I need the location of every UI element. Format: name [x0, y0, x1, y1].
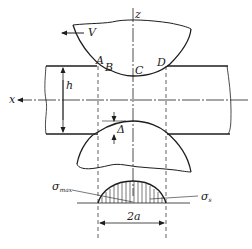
z-axis-label: z — [134, 8, 141, 21]
point-b-label: B — [104, 61, 113, 74]
stress-distribution — [72, 181, 198, 203]
contact-width-label: 2a — [126, 210, 141, 223]
contact-diagram: z V A B C D x h — [0, 0, 252, 249]
point-a-label: A — [95, 54, 104, 67]
stress-max-label: σmax — [52, 180, 73, 193]
thickness-label: h — [66, 79, 73, 92]
point-d-label: D — [156, 56, 166, 69]
velocity-label: V — [88, 26, 97, 39]
x-axis-label: x — [9, 93, 16, 106]
compression-label: Δ — [116, 123, 125, 136]
point-c-label: C — [135, 64, 144, 77]
lower-roller — [77, 121, 191, 172]
stress-s-label: σs — [201, 190, 212, 203]
